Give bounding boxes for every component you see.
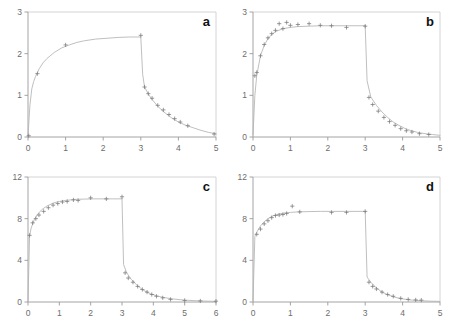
x-tick-label: 2 bbox=[325, 308, 330, 318]
axes bbox=[253, 12, 440, 137]
x-tick-label: 4 bbox=[176, 143, 181, 153]
x-tick-label: 4 bbox=[151, 308, 156, 318]
x-tick-label: 2 bbox=[101, 143, 106, 153]
y-tick-label: 0 bbox=[17, 297, 22, 307]
panel-a: 0123450123a bbox=[0, 0, 225, 165]
y-tick-label: 8 bbox=[242, 214, 247, 224]
y-tick-label: 2 bbox=[17, 49, 22, 59]
plot-b: 0123450123b bbox=[225, 0, 449, 165]
y-tick-label: 3 bbox=[242, 7, 247, 17]
x-tick-label: 4 bbox=[400, 308, 405, 318]
x-tick-label: 1 bbox=[57, 308, 62, 318]
axes bbox=[28, 12, 216, 137]
panel-c: 012345604812c bbox=[0, 165, 225, 330]
curve-line bbox=[28, 37, 141, 136]
plot-frame bbox=[28, 12, 216, 137]
data-markers bbox=[27, 33, 217, 138]
plot-frame bbox=[253, 177, 440, 302]
x-tick-label: 1 bbox=[288, 143, 293, 153]
panel-letter-a: a bbox=[203, 14, 211, 29]
panel-letter-b: b bbox=[426, 14, 434, 29]
y-tick-label: 0 bbox=[242, 132, 247, 142]
x-tick-label: 5 bbox=[438, 308, 443, 318]
curve-line bbox=[253, 26, 365, 135]
y-tick-label: 1 bbox=[242, 90, 247, 100]
y-tick-label: 0 bbox=[242, 297, 247, 307]
y-tick-label: 3 bbox=[17, 7, 22, 17]
x-tick-label: 3 bbox=[120, 308, 125, 318]
x-tick-label: 5 bbox=[438, 143, 443, 153]
panel-d: 01234504812d bbox=[225, 165, 449, 330]
y-tick-label: 12 bbox=[238, 172, 248, 182]
x-tick-label: 0 bbox=[26, 143, 31, 153]
y-tick-label: 8 bbox=[17, 214, 22, 224]
x-tick-label: 0 bbox=[251, 143, 256, 153]
curve-line bbox=[141, 37, 216, 134]
plot-frame bbox=[253, 12, 440, 137]
plot-d: 01234504812d bbox=[225, 165, 449, 330]
x-tick-label: 3 bbox=[363, 143, 368, 153]
data-markers bbox=[253, 20, 431, 136]
curve-line bbox=[253, 211, 365, 301]
data-markers bbox=[255, 204, 424, 302]
y-tick-label: 12 bbox=[13, 172, 23, 182]
x-tick-label: 3 bbox=[138, 143, 143, 153]
x-tick-label: 1 bbox=[63, 143, 68, 153]
panel-letter-d: d bbox=[426, 179, 434, 194]
x-tick-label: 0 bbox=[251, 308, 256, 318]
x-tick-label: 6 bbox=[214, 308, 219, 318]
axes bbox=[253, 177, 440, 302]
curve-line bbox=[365, 26, 440, 136]
panel-b: 0123450123b bbox=[225, 0, 449, 165]
x-tick-label: 4 bbox=[400, 143, 405, 153]
x-tick-label: 0 bbox=[26, 308, 31, 318]
x-tick-label: 2 bbox=[88, 308, 93, 318]
x-tick-label: 1 bbox=[288, 308, 293, 318]
y-tick-label: 4 bbox=[242, 255, 247, 265]
x-tick-label: 2 bbox=[325, 143, 330, 153]
x-tick-label: 3 bbox=[363, 308, 368, 318]
y-tick-label: 0 bbox=[17, 132, 22, 142]
y-tick-label: 2 bbox=[242, 49, 247, 59]
panel-letter-c: c bbox=[203, 179, 210, 194]
curve-line bbox=[28, 199, 122, 301]
x-tick-label: 5 bbox=[182, 308, 187, 318]
y-tick-label: 4 bbox=[17, 255, 22, 265]
plot-a: 0123450123a bbox=[0, 0, 225, 165]
plot-c: 012345604812c bbox=[0, 165, 225, 330]
four-panel-figure: 0123450123a 0123450123b 012345604812c 01… bbox=[0, 0, 449, 330]
y-tick-label: 1 bbox=[17, 90, 22, 100]
x-tick-label: 5 bbox=[214, 143, 219, 153]
